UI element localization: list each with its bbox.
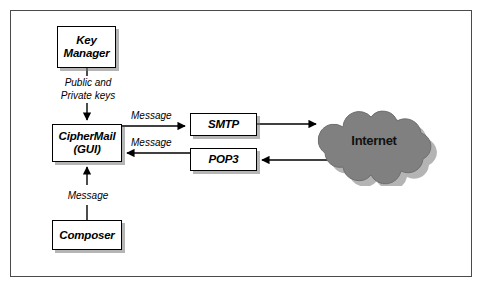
node-key-manager-line1: Key	[58, 34, 115, 47]
node-internet-cloud[interactable]: Internet	[308, 104, 440, 186]
edge-label-keys-line2: Private keys	[61, 90, 115, 101]
node-pop3-line1: POP3	[191, 153, 256, 166]
node-ciphermail[interactable]: CipherMail (GUI)	[52, 124, 122, 162]
edge-label-message-from-composer: Message	[60, 190, 116, 203]
node-key-manager-line2: Manager	[58, 47, 115, 60]
cloud-icon	[308, 104, 440, 186]
node-pop3[interactable]: POP3	[190, 148, 257, 171]
node-smtp[interactable]: SMTP	[190, 113, 257, 136]
node-ciphermail-line2: (GUI)	[53, 143, 121, 156]
node-composer-line1: Composer	[53, 229, 121, 242]
edge-label-message-to-smtp: Message	[131, 110, 172, 123]
edge-label-message-from-pop3: Message	[131, 137, 172, 150]
node-ciphermail-line1: CipherMail	[53, 130, 121, 143]
node-composer[interactable]: Composer	[52, 220, 122, 250]
edge-label-keys-line1: Public and	[65, 77, 112, 88]
node-key-manager[interactable]: Key Manager	[57, 26, 116, 68]
edge-label-public-private-keys: Public and Private keys	[50, 77, 126, 102]
diagram-figure: Key Manager CipherMail (GUI) Composer SM…	[0, 0, 484, 288]
node-smtp-line1: SMTP	[191, 118, 256, 131]
